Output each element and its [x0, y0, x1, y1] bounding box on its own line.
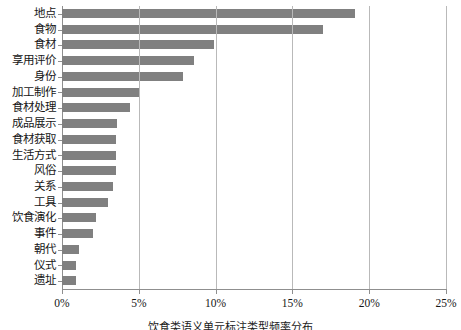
- category-label: 生活方式: [12, 148, 56, 164]
- bar: [62, 56, 194, 65]
- x-gridline: [139, 6, 140, 289]
- bar: [62, 166, 116, 175]
- bar-row: [62, 132, 446, 148]
- category-label: 食物: [34, 22, 56, 38]
- x-gridline: [369, 6, 370, 289]
- y-axis-tick: [58, 234, 62, 235]
- bar: [62, 261, 76, 270]
- bar: [62, 25, 323, 34]
- category-label: 加工制作: [12, 85, 56, 101]
- bar-row: [62, 116, 446, 132]
- bar-row: [62, 242, 446, 258]
- y-axis-tick: [58, 108, 62, 109]
- bar: [62, 213, 96, 222]
- bar-row: [62, 53, 446, 69]
- x-axis-labels: 0%5%10%15%20%25%: [0, 296, 461, 312]
- category-label: 享用评价: [12, 53, 56, 69]
- category-label: 地点: [34, 6, 56, 22]
- bar-row: [62, 195, 446, 211]
- x-axis-label: 20%: [359, 296, 380, 310]
- category-label: 事件: [34, 226, 56, 242]
- bar-row: [62, 179, 446, 195]
- bar-row: [62, 148, 446, 164]
- x-axis-line: [62, 289, 447, 290]
- y-axis-tick: [58, 45, 62, 46]
- bar: [62, 72, 183, 81]
- y-axis-tick: [58, 124, 62, 125]
- y-axis-tick: [58, 61, 62, 62]
- bar-row: [62, 6, 446, 22]
- bar-row: [62, 273, 446, 289]
- category-label: 食材: [34, 37, 56, 53]
- bar: [62, 229, 93, 238]
- x-axis-tick: [446, 290, 447, 294]
- bar-chart: 地点食物食材享用评价身份加工制作食材处理成品展示食材获取生活方式风俗关系工具饮食…: [0, 0, 461, 330]
- x-axis-tick: [369, 290, 370, 294]
- bar: [62, 103, 130, 112]
- figure-caption: 饮食类语义单元标注类型频率分布: [0, 320, 461, 330]
- x-axis-tick: [292, 290, 293, 294]
- y-axis-tick: [58, 171, 62, 172]
- category-label: 工具: [34, 195, 56, 211]
- y-axis-tick: [58, 14, 62, 15]
- x-axis-tick: [139, 290, 140, 294]
- bar-row: [62, 258, 446, 274]
- category-label: 关系: [34, 179, 56, 195]
- bar: [62, 151, 116, 160]
- y-axis-tick: [58, 203, 62, 204]
- y-axis-tick: [58, 92, 62, 93]
- x-axis-label: 10%: [205, 296, 226, 310]
- y-axis-tick: [58, 30, 62, 31]
- bar: [62, 88, 139, 97]
- bar-row: [62, 85, 446, 101]
- y-axis-tick: [58, 155, 62, 156]
- x-axis-tick: [62, 290, 63, 294]
- bar: [62, 198, 108, 207]
- y-axis-tick: [58, 281, 62, 282]
- y-axis-tick: [58, 77, 62, 78]
- category-label: 风俗: [34, 163, 56, 179]
- bar: [62, 135, 116, 144]
- category-label: 饮食演化: [12, 210, 56, 226]
- category-label: 仪式: [34, 258, 56, 274]
- bar: [62, 276, 76, 285]
- category-axis-labels: 地点食物食材享用评价身份加工制作食材处理成品展示食材获取生活方式风俗关系工具饮食…: [0, 6, 60, 289]
- x-axis-label: 25%: [435, 296, 456, 310]
- bar-rows: [62, 6, 446, 289]
- category-label: 遗址: [34, 273, 56, 289]
- bar: [62, 245, 79, 254]
- x-axis-label: 5%: [131, 296, 146, 310]
- category-label: 身份: [34, 69, 56, 85]
- bar-row: [62, 100, 446, 116]
- category-label: 成品展示: [12, 116, 56, 132]
- bar: [62, 182, 113, 191]
- y-axis-tick: [58, 218, 62, 219]
- bar-row: [62, 226, 446, 242]
- bar-row: [62, 22, 446, 38]
- bar-row: [62, 210, 446, 226]
- y-axis-tick: [58, 265, 62, 266]
- category-label: 食材处理: [12, 100, 56, 116]
- bar-row: [62, 37, 446, 53]
- x-gridline: [216, 6, 217, 289]
- x-axis-label: 0%: [54, 296, 69, 310]
- y-axis-tick: [58, 187, 62, 188]
- x-gridline: [292, 6, 293, 289]
- plot-area: [62, 6, 446, 289]
- y-axis-tick: [58, 140, 62, 141]
- bar: [62, 9, 355, 18]
- category-label: 朝代: [34, 242, 56, 258]
- bar: [62, 119, 117, 128]
- bar-row: [62, 163, 446, 179]
- bar-row: [62, 69, 446, 85]
- y-axis-tick: [58, 250, 62, 251]
- category-label: 食材获取: [12, 132, 56, 148]
- x-axis-tick: [216, 290, 217, 294]
- x-gridline: [446, 6, 447, 289]
- x-axis-label: 15%: [282, 296, 303, 310]
